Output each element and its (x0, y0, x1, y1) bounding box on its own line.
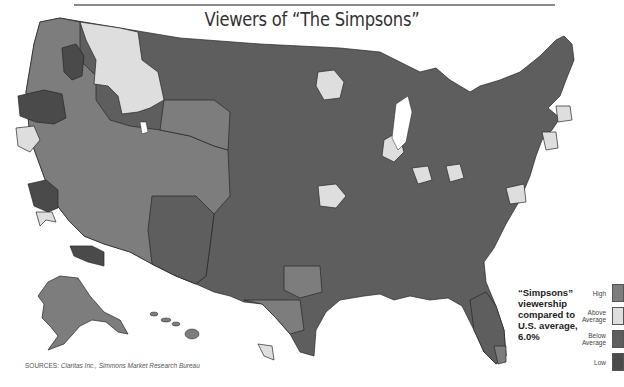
legend: High AboveAverage BelowAverage Low (570, 282, 624, 374)
region-new-york-above-average (542, 132, 558, 150)
legend-item-high: High (570, 282, 624, 304)
region-boston-above-average (556, 106, 572, 122)
region-dc-above-average (506, 184, 526, 204)
legend-label: AboveAverage (582, 309, 606, 323)
region-texas-border-above-average (258, 344, 274, 360)
legend-label: High (593, 290, 606, 297)
region-alaska-high (38, 276, 128, 350)
legend-item-below-average: BelowAverage (570, 328, 624, 350)
region-hawaii-high (150, 312, 199, 339)
sources-label: SOURCES: (25, 362, 59, 369)
legend-label: Low (594, 359, 606, 366)
legend-swatch-high (612, 284, 624, 302)
legend-swatch-below-average (612, 330, 624, 348)
region-texas-south-high (244, 300, 304, 334)
legend-label: BelowAverage (582, 332, 606, 346)
sources-text: Claritas Inc., Simmons Market Research B… (61, 362, 200, 369)
region-southwest-below-average (148, 196, 214, 284)
sources-credit: SOURCES: Claritas Inc., Simmons Market R… (25, 362, 200, 369)
legend-item-above-average: AboveAverage (570, 305, 624, 327)
legend-swatch-above-average (612, 307, 624, 325)
region-arizona-south-low (70, 246, 104, 266)
legend-swatch-low (612, 353, 624, 371)
region-texas-central-high (284, 266, 322, 298)
region-oregon-low (18, 90, 66, 124)
legend-item-low: Low (570, 351, 624, 373)
region-southern-california-above-average (36, 212, 56, 226)
